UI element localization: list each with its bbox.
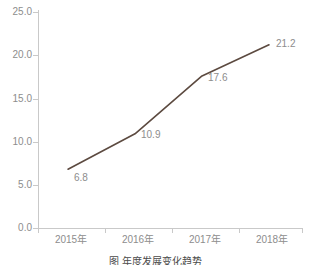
data-label-2018: 21.2 <box>276 39 295 49</box>
data-label-2015: 6.8 <box>74 173 88 183</box>
data-label-2017: 17.6 <box>208 73 227 83</box>
figure-caption: 图 年度发展变化趋势 <box>0 256 311 265</box>
line-chart: 25.0 20.0 15.0 10.0 5.0 0.0 2015年 2016年 … <box>0 0 311 265</box>
data-label-2016: 10.9 <box>141 130 160 140</box>
